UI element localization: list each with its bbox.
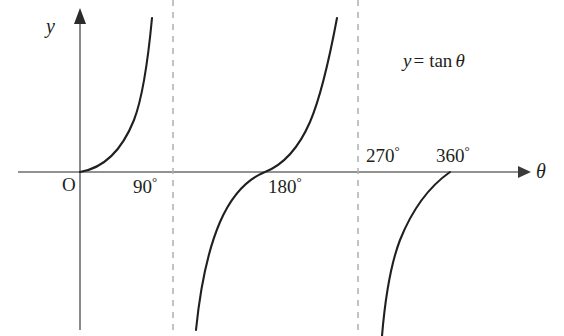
tick-label-360: 360°: [436, 144, 470, 165]
y-axis: [74, 8, 86, 330]
tan-curve-branch-3: [382, 172, 450, 336]
x-axis-label: θ: [536, 161, 546, 181]
y-axis-label: y: [46, 16, 55, 36]
degree-symbol-360: °: [465, 143, 470, 158]
degree-symbol-270: °: [395, 143, 400, 158]
equation-variable: θ: [452, 50, 464, 71]
tick-label-90: 90°: [133, 175, 157, 196]
tan-curve-branch-1: [80, 18, 152, 172]
degree-symbol-90: °: [152, 174, 157, 189]
tick-value-90: 90: [133, 176, 152, 197]
equation-annotation: y=tanθ: [403, 51, 465, 70]
tick-label-180: 180°: [268, 175, 302, 196]
degree-symbol-180: °: [297, 174, 302, 189]
tick-value-270: 270: [366, 145, 395, 166]
tick-value-180: 180: [268, 176, 297, 197]
equation-function: tan: [426, 50, 452, 71]
plot-area: [0, 0, 564, 336]
tick-label-270: 270°: [366, 144, 400, 165]
y-axis-arrowhead: [74, 8, 86, 24]
equation-equals: =: [411, 50, 426, 71]
tan-function-graph-figure: y θ O 90° 180° 270° 360° y=tanθ: [0, 0, 564, 336]
origin-label: O: [62, 175, 76, 194]
tan-curve-branch-2: [196, 18, 337, 330]
x-axis-arrowhead: [518, 166, 531, 178]
tick-value-360: 360: [436, 145, 465, 166]
